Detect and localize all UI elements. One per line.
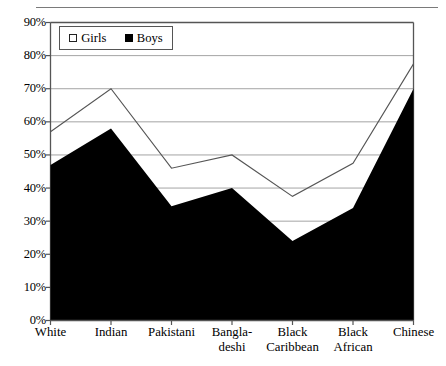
legend-label-boys: Boys (137, 32, 163, 45)
chart-canvas (0, 0, 446, 366)
chart-legend: Girls Boys (59, 26, 173, 50)
y-tick-label: 30% (2, 215, 46, 228)
legend-item-girls: Girls (69, 32, 106, 45)
y-tick-label: 60% (2, 115, 46, 128)
series-area-boys (51, 89, 414, 321)
y-tick-label: 70% (2, 82, 46, 95)
y-tick-label: 90% (2, 16, 46, 29)
y-tick-label: 40% (2, 182, 46, 195)
y-tick-marks (46, 23, 51, 321)
y-axis-labels: 90%80%70%60%50%40%30%20%10%0% (0, 0, 46, 366)
legend-item-boys: Boys (125, 32, 163, 45)
x-tick-label: Chinese (372, 325, 446, 340)
open-square-icon (69, 34, 77, 42)
y-tick-label: 10% (2, 281, 46, 294)
area-chart-figure: 90%80%70%60%50%40%30%20%10%0% WhiteIndia… (0, 0, 446, 366)
y-tick-label: 50% (2, 148, 46, 161)
x-axis-labels: WhiteIndianPakistaniBangla- deshiBlack C… (0, 325, 446, 365)
y-tick-label: 20% (2, 248, 46, 261)
legend-label-girls: Girls (81, 32, 106, 45)
filled-square-icon (125, 34, 133, 42)
chart-page: 90%80%70%60%50%40%30%20%10%0% WhiteIndia… (0, 0, 446, 366)
y-tick-label: 80% (2, 49, 46, 62)
